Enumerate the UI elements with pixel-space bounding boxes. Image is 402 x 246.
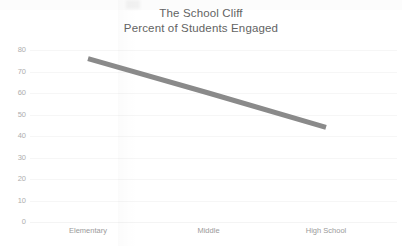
chart-figure: The School Cliff Percent of Students Eng…	[0, 0, 402, 246]
series-line-0	[88, 59, 326, 128]
series-line-layer	[0, 0, 402, 246]
